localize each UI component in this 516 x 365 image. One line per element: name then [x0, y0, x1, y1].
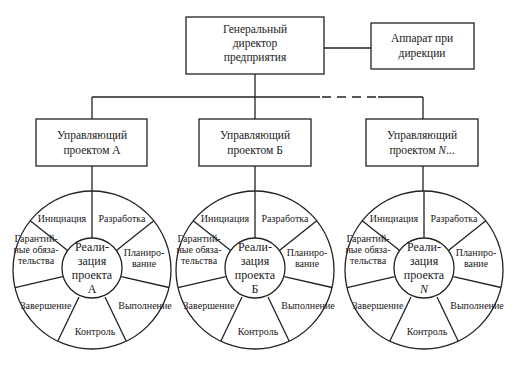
- segment-warranty-label: тельства: [181, 255, 218, 266]
- segment-warranty-label: Гарантий-: [346, 233, 389, 244]
- director-line-1: Генеральный: [223, 23, 287, 36]
- manager-b-line-1: Управляющий: [220, 129, 290, 142]
- segment-warranty-label: Гарантий-: [14, 233, 57, 244]
- segment-development-label: Разработка: [99, 213, 146, 224]
- segment-control-label: Контроль: [75, 326, 116, 337]
- manager-node-b: Управляющий проектом Б: [199, 119, 311, 166]
- segment-initiation-label: Инициация: [38, 213, 87, 224]
- segment-warranty-label: ные обяза-: [345, 244, 390, 255]
- hub-label-line: Б: [252, 282, 259, 296]
- manager-b-line-2: проектом Б: [227, 144, 283, 157]
- director-line-3: предприятия: [224, 51, 287, 64]
- segment-execution-label: Выполнение: [450, 300, 504, 311]
- hub-label-line: Реали-: [407, 240, 441, 254]
- org-chart-diagram: Генеральный директор предприятия Аппарат…: [0, 0, 516, 365]
- segment-warranty-label: тельства: [350, 255, 387, 266]
- hub-label-line: проекта: [235, 268, 276, 282]
- hub-label-line: проекта: [404, 268, 445, 282]
- segment-control-label: Контроль: [407, 326, 448, 337]
- director-line-2: директор: [233, 37, 278, 50]
- project-wheel-b: Реали-зацияпроектаБИнициацияРазработкаПл…: [176, 191, 335, 349]
- apparatus-node: Аппарат при дирекции: [371, 23, 474, 69]
- manager-n-line-1: Управляющий: [387, 129, 457, 142]
- hub-label-line: проекта: [72, 268, 113, 282]
- segment-development-label: Разработка: [262, 213, 309, 224]
- manager-a-line-1: Управляющий: [57, 129, 127, 142]
- manager-a-line-2: проектом А: [63, 144, 121, 157]
- manager-node-a: Управляющий проектом А: [36, 119, 147, 166]
- project-wheel-a: Реали-зацияпроектаАИнициацияРазработкаПл…: [13, 191, 172, 349]
- director-node: Генеральный директор предприятия: [186, 17, 324, 74]
- hub-label-line: А: [88, 282, 97, 296]
- segment-control-label: Контроль: [238, 326, 279, 337]
- segment-completion-label: Завершение: [21, 300, 72, 311]
- segment-execution-label: Выполнение: [281, 300, 335, 311]
- segment-initiation-label: Инициация: [370, 213, 419, 224]
- segment-planning-label: Планиро-: [124, 247, 165, 258]
- project-wheel-n: Реали-зацияпроектаNИнициацияРазработкаПл…: [345, 191, 504, 349]
- hub-label-line: зация: [78, 254, 107, 268]
- segment-warranty-label: Гарантий-: [177, 233, 220, 244]
- segment-planning-label: вание: [295, 258, 320, 269]
- segment-completion-label: Завершение: [184, 300, 235, 311]
- segment-warranty-label: тельства: [18, 255, 55, 266]
- apparatus-line-2: дирекции: [399, 47, 446, 60]
- apparatus-line-1: Аппарат при: [391, 32, 453, 45]
- hub-label-line: N: [419, 282, 429, 296]
- manager-n-line-2: проектом N...: [389, 144, 454, 157]
- segment-planning-label: Планиро-: [456, 247, 497, 258]
- segment-warranty-label: ные обяза-: [176, 244, 221, 255]
- hub-label-line: зация: [241, 254, 270, 268]
- manager-node-n: Управляющий проектом N...: [366, 119, 478, 166]
- hub-label-line: Реали-: [75, 240, 109, 254]
- segment-execution-label: Выполнение: [118, 300, 172, 311]
- segment-warranty-label: ные обяза-: [13, 244, 58, 255]
- segment-planning-label: вание: [132, 258, 157, 269]
- segment-completion-label: Завершение: [353, 300, 404, 311]
- segment-planning-label: вание: [464, 258, 489, 269]
- segment-initiation-label: Инициация: [201, 213, 250, 224]
- segment-planning-label: Планиро-: [287, 247, 328, 258]
- hub-label-line: зация: [410, 254, 439, 268]
- segment-development-label: Разработка: [431, 213, 478, 224]
- hub-label-line: Реали-: [238, 240, 272, 254]
